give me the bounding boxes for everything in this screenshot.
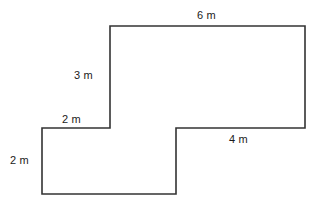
l-shaped-polygon [42, 26, 305, 194]
dimension-label-top-6m: 6 m [197, 10, 216, 21]
dimension-label-step-2m: 2 m [62, 114, 81, 125]
polygon-outline-svg [0, 0, 315, 209]
dimension-label-lower-left-2m: 2 m [10, 155, 29, 166]
dimension-label-lower-right-4m: 4 m [229, 134, 248, 145]
dimension-label-upper-left-3m: 3 m [74, 70, 93, 81]
geometry-figure-canvas: 6 m 3 m 2 m 4 m 2 m [0, 0, 315, 209]
